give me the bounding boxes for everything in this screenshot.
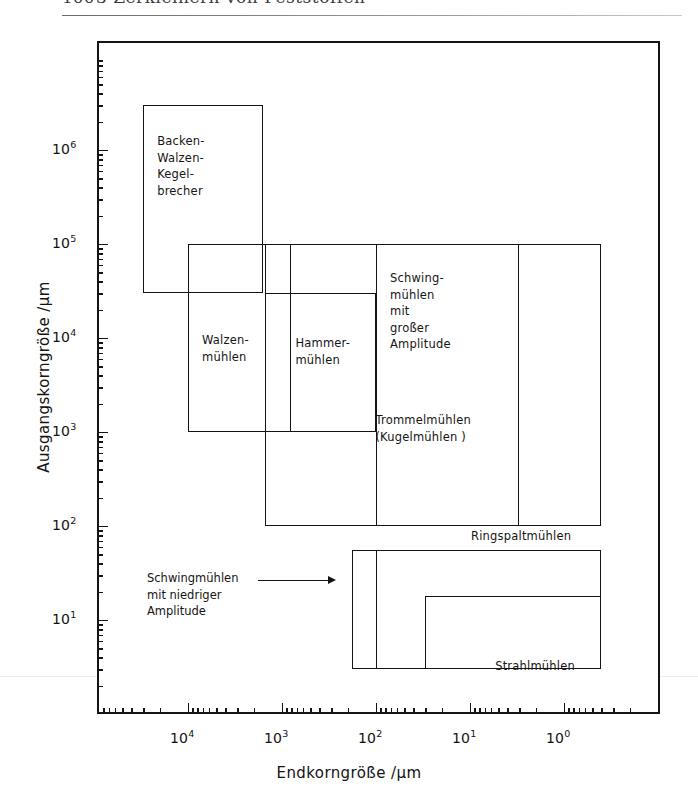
y-tick-major: [97, 338, 108, 339]
x-tick-minor: [630, 708, 631, 714]
y-tick-minor: [97, 310, 103, 311]
x-tick-label: 100: [546, 728, 570, 746]
y-tick-minor: [97, 248, 103, 249]
y-tick-minor: [97, 216, 103, 217]
x-tick-minor: [404, 708, 405, 714]
y-tick-minor: [97, 171, 103, 172]
y-tick-minor: [97, 105, 103, 106]
y-tick-label: 102: [52, 515, 76, 533]
x-tick-minor: [303, 708, 304, 714]
x-tick-minor: [122, 708, 123, 714]
y-tick-minor: [97, 547, 103, 548]
y-tick-minor: [97, 347, 103, 348]
x-tick-minor: [585, 708, 586, 714]
x-tick-minor: [216, 708, 217, 714]
y-tick-minor: [97, 447, 103, 448]
y-tick-minor: [97, 535, 103, 536]
y-tick-minor: [97, 359, 103, 360]
y-tick-minor: [97, 366, 103, 367]
x-tick-minor: [331, 708, 332, 714]
x-tick-minor: [254, 708, 255, 714]
y-tick-major: [97, 432, 108, 433]
y-tick-minor: [97, 530, 103, 531]
x-tick-minor: [197, 708, 198, 714]
y-tick-label: 104: [52, 327, 76, 345]
y-tick-label: 103: [52, 421, 76, 439]
x-tick-minor: [385, 708, 386, 714]
x-tick-minor: [319, 708, 320, 714]
x-tick-major: [188, 703, 189, 714]
y-tick-minor: [97, 71, 103, 72]
y-tick-minor: [97, 281, 103, 282]
y-tick-minor: [97, 460, 103, 461]
x-tick-major: [470, 703, 471, 714]
y-tick-minor: [97, 353, 103, 354]
x-tick-minor: [507, 708, 508, 714]
x-tick-minor: [310, 708, 311, 714]
range-box-label-strahlmuehlen: Strahlmühlen: [495, 658, 575, 675]
y-tick-minor: [97, 481, 103, 482]
y-tick-minor: [97, 575, 103, 576]
y-tick-minor: [97, 187, 103, 188]
x-tick-minor: [568, 708, 569, 714]
x-tick-minor: [203, 708, 204, 714]
y-tick-minor: [97, 635, 103, 636]
y-tick-minor: [97, 624, 103, 625]
y-tick-minor: [97, 441, 103, 442]
x-tick-minor: [474, 708, 475, 714]
y-tick-major: [97, 150, 108, 151]
y-tick-minor: [97, 686, 103, 687]
y-tick-minor: [97, 541, 103, 542]
x-tick-minor: [109, 708, 110, 714]
y-tick-minor: [97, 199, 103, 200]
y-tick-minor: [97, 387, 103, 388]
y-tick-minor: [97, 159, 103, 160]
x-tick-minor: [592, 708, 593, 714]
x-tick-minor: [286, 708, 287, 714]
comminution-range-chart: 101102103104105106 104103102101100 Backe…: [0, 0, 698, 811]
y-tick-minor: [97, 563, 103, 564]
y-tick-minor: [97, 669, 103, 670]
range-box-label-schwingmuehlen-grosse-amplitude: Schwing- mühlen mit großer Amplitude: [390, 270, 451, 353]
range-box-label-ringspaltmuehlen: Ringspaltmühlen: [471, 528, 571, 545]
x-tick-minor: [192, 708, 193, 714]
y-tick-minor: [97, 178, 103, 179]
y-tick-minor: [97, 469, 103, 470]
annotation-arrow-icon: [328, 576, 336, 584]
y-tick-major: [97, 526, 108, 527]
x-tick-label: 104: [170, 728, 194, 746]
x-tick-minor: [579, 708, 580, 714]
y-tick-minor: [97, 648, 103, 649]
y-tick-minor: [97, 253, 103, 254]
annotation-schwingmuehlen-niedrige-amplitude: Schwingmühlen mit niedriger Amplitude: [147, 570, 238, 620]
y-tick-major: [97, 244, 108, 245]
y-tick-minor: [97, 657, 103, 658]
y-tick-minor: [97, 293, 103, 294]
y-tick-minor: [97, 122, 103, 123]
x-axis-title: Endkorngröße /μm: [0, 764, 698, 782]
x-tick-minor: [225, 708, 226, 714]
x-tick-minor: [348, 708, 349, 714]
y-tick-minor: [97, 554, 103, 555]
x-tick-minor: [413, 708, 414, 714]
x-tick-label: 103: [264, 728, 288, 746]
y-tick-minor: [97, 265, 103, 266]
x-tick-minor: [397, 708, 398, 714]
range-box-label-hammermuehlen: Hammer- mühlen: [295, 335, 350, 368]
y-tick-minor: [97, 272, 103, 273]
x-tick-minor: [573, 708, 574, 714]
y-tick-minor: [97, 641, 103, 642]
y-tick-minor: [97, 592, 103, 593]
x-tick-minor: [115, 708, 116, 714]
x-tick-label: 102: [358, 728, 382, 746]
x-tick-minor: [425, 708, 426, 714]
y-axis-title: Ausgangskorngröße /μm: [35, 247, 53, 507]
y-tick-minor: [97, 165, 103, 166]
x-tick-minor: [131, 708, 132, 714]
y-tick-label: 105: [52, 233, 76, 251]
x-tick-label: 101: [452, 728, 476, 746]
annotation-leader-line: [258, 580, 330, 581]
y-tick-minor: [97, 498, 103, 499]
x-tick-minor: [391, 708, 392, 714]
x-tick-minor: [237, 708, 238, 714]
